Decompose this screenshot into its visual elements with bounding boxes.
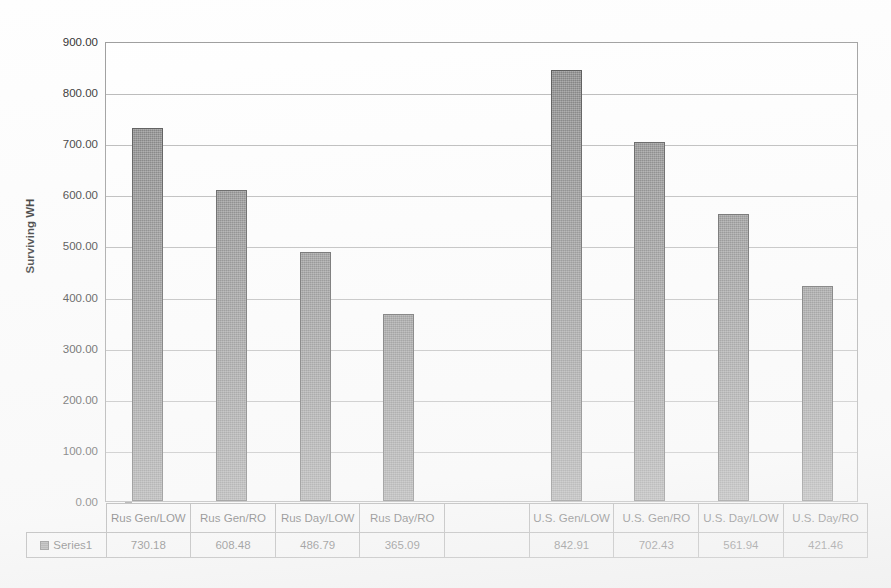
y-axis-tick-labels: 900.00800.00700.00600.00500.00400.00300.… — [26, 42, 98, 502]
table-cell-value-rus-gen-ro: 608.48 — [191, 533, 276, 558]
category-label-text: U.S. Gen/LOW — [530, 512, 614, 525]
bar-rus-gen-ro[interactable] — [216, 190, 247, 501]
bar-u-s-gen-ro[interactable] — [634, 142, 665, 501]
table-cell-value-rus-gen-low: 730.18 — [106, 533, 191, 558]
legend-swatch-icon — [40, 541, 49, 550]
table-cell-category-u-s-day-low: U.S. Day/LOW — [699, 504, 784, 533]
y-axis-tick-label: 700.00 — [32, 138, 98, 150]
plot-area — [105, 42, 858, 502]
category-label-text: U.S. Day/LOW — [699, 512, 783, 525]
y-axis-tick-label: 200.00 — [32, 394, 98, 406]
table-cell-category-u-s-gen-ro: U.S. Gen/RO — [614, 504, 699, 533]
table-cell-category-rus-day-ro: Rus Day/RO — [360, 504, 445, 533]
category-label-text: Rus Day/LOW — [276, 512, 360, 525]
table-cell-value-rus-day-ro: 365.09 — [360, 533, 445, 558]
table-cell-value-rus-day-low: 486.79 — [275, 533, 360, 558]
table-cell-category-u-s-gen-low: U.S. Gen/LOW — [529, 504, 614, 533]
table-cell-value-empty — [445, 533, 530, 558]
y-axis-tick-label: 800.00 — [32, 87, 98, 99]
y-axis-tick-label: 300.00 — [32, 343, 98, 355]
legend-cell: Series1 — [27, 533, 107, 558]
table-cell-value-u-s-day-ro: 421.46 — [783, 533, 868, 558]
y-axis-tick-label: 100.00 — [32, 445, 98, 457]
bar-rus-day-low[interactable] — [300, 252, 331, 501]
table-cell-category-u-s-day-ro: U.S. Day/RO — [783, 504, 868, 533]
table-cell-category-rus-gen-low: Rus Gen/LOW — [106, 504, 191, 533]
ghost-title-bleedthrough — [300, 2, 600, 16]
bar-u-s-gen-low[interactable] — [551, 70, 582, 501]
y-axis-tick-label: 600.00 — [32, 189, 98, 201]
category-label-text: Rus Day/RO — [360, 512, 444, 525]
gridline — [106, 94, 857, 95]
bar-rus-gen-low[interactable] — [132, 128, 163, 501]
table-cell-category-rus-gen-ro: Rus Gen/RO — [191, 504, 276, 533]
table-row-categories: Rus Gen/LOWRus Gen/RORus Day/LOWRus Day/… — [27, 504, 868, 533]
category-label-text: Rus Gen/LOW — [107, 512, 191, 525]
bar-u-s-day-ro[interactable] — [802, 286, 833, 501]
category-label-text: U.S. Gen/RO — [614, 512, 698, 525]
table-corner-cell — [27, 504, 107, 533]
table-cell-value-u-s-gen-low: 842.91 — [529, 533, 614, 558]
category-label-text: U.S. Day/RO — [784, 512, 868, 525]
table-cell-value-u-s-day-low: 561.94 — [699, 533, 784, 558]
chart-data-table: Rus Gen/LOWRus Gen/RORus Day/LOWRus Day/… — [26, 503, 868, 558]
bar-u-s-day-low[interactable] — [718, 214, 749, 501]
gridline — [106, 145, 857, 146]
legend-series-label: Series1 — [53, 539, 92, 551]
table-row-values: Series1730.18608.48486.79365.09842.91702… — [27, 533, 868, 558]
category-label-text: Rus Gen/RO — [191, 512, 275, 525]
table-cell-category-rus-day-low: Rus Day/LOW — [275, 504, 360, 533]
bar-rus-day-ro[interactable] — [383, 314, 414, 501]
chart-page: Surviving WH 900.00800.00700.00600.00500… — [0, 0, 891, 588]
y-axis-tick-label: 900.00 — [32, 36, 98, 48]
y-axis-tick-label: 500.00 — [32, 240, 98, 252]
table-cell-category-empty — [445, 504, 530, 533]
y-axis-tick-label: 400.00 — [32, 292, 98, 304]
table-cell-value-u-s-gen-ro: 702.43 — [614, 533, 699, 558]
